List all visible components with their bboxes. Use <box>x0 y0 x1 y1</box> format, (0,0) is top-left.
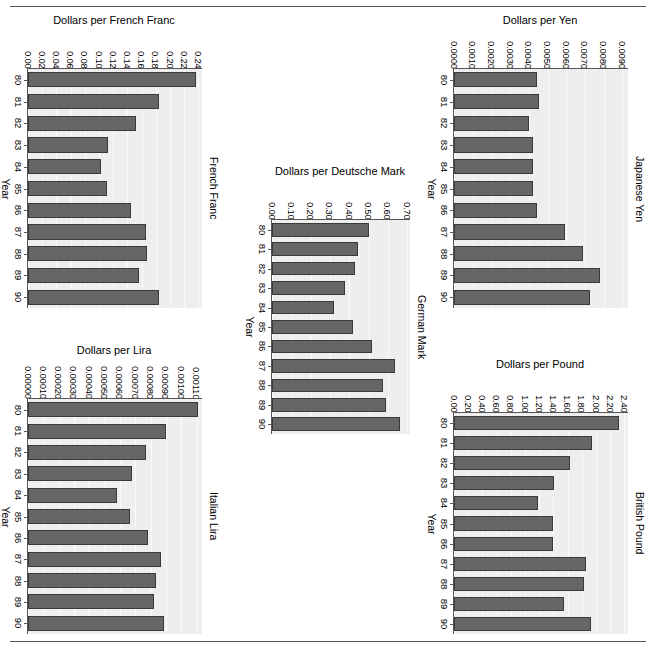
x-tick-label: 0.00000 <box>23 366 34 399</box>
y-tick-mark <box>450 145 454 146</box>
x-axis-line <box>271 219 410 220</box>
gridline <box>197 399 198 634</box>
y-tick-label: 87 <box>257 361 268 372</box>
x-tick-label: 0.22 <box>179 51 190 69</box>
x-tick-label: 0.10 <box>286 202 297 220</box>
x-tick-label: 0.08 <box>79 51 90 69</box>
strip-label-text: British Pound <box>634 492 646 554</box>
bar <box>454 137 533 152</box>
strip-label-italian-lira: Italian Lira <box>206 399 222 634</box>
strip-label-german-mark: German Mark <box>414 220 430 434</box>
x-tick-label: 0.50 <box>363 202 374 220</box>
y-tick-mark <box>24 145 28 146</box>
y-tick-mark <box>450 423 454 424</box>
y-tick-mark <box>268 308 272 309</box>
y-tick-mark <box>24 517 28 518</box>
y-tick-label: 86 <box>13 533 24 544</box>
y-tick-label: 81 <box>13 426 24 437</box>
y-tick-label: 82 <box>439 118 450 129</box>
gridline <box>388 220 389 434</box>
bar <box>28 290 159 305</box>
x-axis-german-mark: 0.000.100.200.300.400.500.600.70 <box>250 180 430 220</box>
y-tick-mark <box>24 495 28 496</box>
y-tick-label: 85 <box>439 518 450 529</box>
y-tick-mark <box>24 602 28 603</box>
plot-area-german-mark <box>272 220 410 434</box>
y-tick-label: 86 <box>439 205 450 216</box>
x-tick-label: 0.00010 <box>38 366 49 399</box>
gridline <box>610 413 611 634</box>
y-tick-label: 80 <box>439 75 450 86</box>
bar <box>454 290 590 305</box>
x-tick-label: 1.00 <box>520 395 531 413</box>
x-tick-label: 0.0050 <box>542 41 553 69</box>
y-tick-label: 90 <box>13 292 24 303</box>
y-tick-label: 81 <box>439 96 450 107</box>
panel-title: Dollars per Yen <box>432 14 648 27</box>
bar <box>28 137 108 152</box>
panel-title: Dollars per Lira <box>6 344 222 357</box>
bar <box>454 436 592 450</box>
x-tick-label: 0.20 <box>165 51 176 69</box>
bar <box>272 301 334 315</box>
x-tick-label: 2.20 <box>605 395 616 413</box>
bar <box>272 379 383 393</box>
panel-german-mark: Dollars per Deutsche Mark0.000.100.200.3… <box>250 165 430 440</box>
bar <box>28 616 164 631</box>
bar <box>454 181 533 196</box>
strip-label-text: French Franc <box>208 157 220 219</box>
y-axis-label: Year <box>0 506 12 527</box>
y-tick-mark <box>450 564 454 565</box>
y-tick-mark <box>24 623 28 624</box>
bar <box>272 417 400 431</box>
y-tick-label: 90 <box>257 419 268 430</box>
y-tick-label: 87 <box>13 554 24 565</box>
y-tick-label: 83 <box>257 283 268 294</box>
bar <box>454 94 539 109</box>
y-tick-label: 89 <box>439 270 450 281</box>
y-tick-label: 82 <box>13 447 24 458</box>
bar <box>28 72 196 87</box>
bar <box>272 262 355 276</box>
gridline <box>596 413 597 634</box>
bar <box>28 224 146 239</box>
x-axis-italian-lira: 0.000000.000100.000200.000300.000400.000… <box>6 359 222 399</box>
x-tick-label: 1.20 <box>534 395 545 413</box>
y-tick-label: 88 <box>13 575 24 586</box>
y-tick-mark <box>268 385 272 386</box>
gridline <box>198 69 199 308</box>
x-tick-label: 0.00020 <box>53 366 64 399</box>
panel-title: Dollars per Pound <box>432 358 648 371</box>
bar <box>454 116 529 131</box>
gridline <box>622 69 623 308</box>
x-tick-label: 0.00110 <box>191 367 202 399</box>
x-tick-label: 0.02 <box>37 51 48 69</box>
y-axis-label: Year <box>244 316 256 337</box>
y-tick-mark <box>450 167 454 168</box>
bar <box>454 416 619 430</box>
y-tick-label: 83 <box>13 140 24 151</box>
x-tick-label: 0.0070 <box>579 41 590 69</box>
bar <box>272 340 372 354</box>
x-axis-line <box>453 412 628 413</box>
y-tick-mark <box>24 410 28 411</box>
gridline <box>166 399 167 634</box>
x-tick-label: 0.10 <box>94 51 105 69</box>
bar <box>272 359 395 373</box>
strip-label-text: German Mark <box>416 295 428 359</box>
bar <box>454 577 584 591</box>
y-tick-mark <box>24 275 28 276</box>
y-tick-label: 82 <box>439 458 450 469</box>
gridline <box>624 413 625 634</box>
y-tick-mark <box>24 80 28 81</box>
y-tick-mark <box>24 167 28 168</box>
y-tick-label: 88 <box>257 380 268 391</box>
x-tick-label: 0.00100 <box>176 366 187 399</box>
y-tick-label: 84 <box>257 302 268 313</box>
y-tick-label: 81 <box>439 438 450 449</box>
y-tick-mark <box>24 102 28 103</box>
x-tick-label: 0.60 <box>382 202 393 220</box>
bar <box>454 516 553 530</box>
y-tick-label: 80 <box>257 224 268 235</box>
y-tick-mark <box>450 80 454 81</box>
